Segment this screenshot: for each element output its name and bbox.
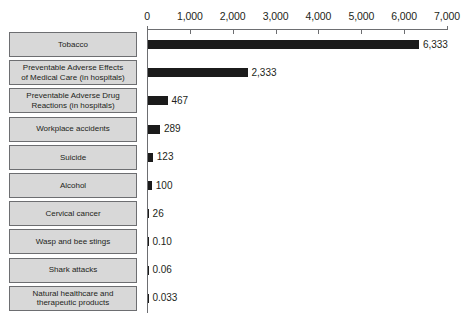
category-box[interactable]: Suicide <box>9 145 137 170</box>
category-label: Alcohol <box>58 181 88 191</box>
bar-value-label: 0.033 <box>152 293 177 303</box>
chart-row: Wasp and bee stings0.10 <box>0 228 474 256</box>
chart-row: Preventable Adverse Drug Reactions (in h… <box>0 87 474 115</box>
bar-value-label: 100 <box>156 181 173 191</box>
category-box[interactable]: Natural healthcare and therapeutic produ… <box>9 286 137 311</box>
category-box[interactable]: Cervical cancer <box>9 201 137 226</box>
category-box[interactable]: Wasp and bee stings <box>9 229 137 254</box>
chart-row: Suicide123 <box>0 144 474 172</box>
bar <box>148 237 149 246</box>
category-box[interactable]: Tobacco <box>9 32 137 57</box>
bar <box>148 153 153 162</box>
bar <box>148 266 149 275</box>
chart-row: Shark attacks0.06 <box>0 257 474 285</box>
category-label: Suicide <box>58 153 88 163</box>
bar <box>148 40 419 49</box>
bar <box>148 68 248 77</box>
chart-row: Alcohol100 <box>0 172 474 200</box>
chart-row: Natural healthcare and therapeutic produ… <box>0 285 474 313</box>
category-label: Workplace accidents <box>34 124 112 134</box>
bar-value-label: 26 <box>153 209 164 219</box>
chart-row: Preventable Adverse Effects of Medical C… <box>0 59 474 87</box>
category-label: Preventable Adverse Effects of Medical C… <box>19 63 127 82</box>
chart-rows: Tobacco6,333Preventable Adverse Effects … <box>0 0 474 325</box>
category-box[interactable]: Workplace accidents <box>9 117 137 142</box>
category-label: Preventable Adverse Drug Reactions (in h… <box>24 91 121 110</box>
bar-value-label: 0.10 <box>152 237 171 247</box>
bar <box>148 209 149 218</box>
bar-value-label: 289 <box>164 124 181 134</box>
category-label: Wasp and bee stings <box>34 237 112 247</box>
bar <box>148 181 152 190</box>
category-label: Natural healthcare and therapeutic produ… <box>31 289 116 308</box>
chart-row: Cervical cancer26 <box>0 200 474 228</box>
bar <box>148 96 168 105</box>
category-box[interactable]: Preventable Adverse Drug Reactions (in h… <box>9 88 137 113</box>
bar-value-label: 2,333 <box>251 68 276 78</box>
bar-value-label: 0.06 <box>152 265 171 275</box>
chart-row: Workplace accidents289 <box>0 116 474 144</box>
bar-value-label: 467 <box>172 96 189 106</box>
bar-value-label: 123 <box>157 152 174 162</box>
bar <box>148 294 149 303</box>
category-label: Shark attacks <box>47 265 99 275</box>
horizontal-bar-chart: 01,0002,0003,0004,0005,0006,0007,000 Tob… <box>0 0 474 325</box>
category-box[interactable]: Preventable Adverse Effects of Medical C… <box>9 60 137 85</box>
chart-row: Tobacco6,333 <box>0 31 474 59</box>
bar-value-label: 6,333 <box>423 40 448 50</box>
category-box[interactable]: Shark attacks <box>9 258 137 283</box>
category-label: Tobacco <box>56 40 90 50</box>
category-label: Cervical cancer <box>43 209 102 219</box>
category-box[interactable]: Alcohol <box>9 173 137 198</box>
bar <box>148 125 160 134</box>
